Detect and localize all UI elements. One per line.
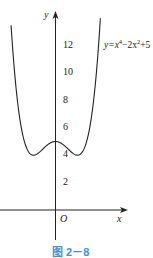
y-tick-4: 4 <box>63 148 68 159</box>
y-tick-6: 6 <box>63 121 68 132</box>
y-tick-2: 2 <box>63 176 68 187</box>
y-tick-8: 8 <box>63 94 68 105</box>
function-equation-label: y=x4−2x2+5 <box>103 38 151 50</box>
function-graph: y x O 12 10 8 6 4 2 y=x4−2x2+5 图 2－8 <box>0 0 153 258</box>
y-axis-label: y <box>43 9 49 20</box>
figure-caption: 图 2－8 <box>52 246 89 258</box>
y-tick-10: 10 <box>63 66 73 77</box>
x-axis-label: x <box>116 213 122 224</box>
origin-label: O <box>60 213 67 224</box>
y-tick-12: 12 <box>63 39 73 50</box>
